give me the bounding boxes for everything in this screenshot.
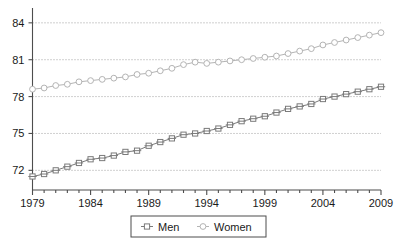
y-axis-label-75: 75 <box>12 127 24 139</box>
x-axis-label-1989: 1989 <box>136 197 160 209</box>
women-marker[interactable] <box>239 57 245 63</box>
series-women[interactable] <box>30 30 384 92</box>
women-marker[interactable] <box>262 54 268 60</box>
women-marker[interactable] <box>76 79 82 85</box>
x-axis-label-1999: 1999 <box>253 197 277 209</box>
women-marker[interactable] <box>157 68 163 74</box>
x-axis-label-2009: 2009 <box>369 197 393 209</box>
chart-legend[interactable]: MenWomen <box>131 216 266 237</box>
women-marker[interactable] <box>320 42 326 48</box>
women-marker[interactable] <box>111 75 117 81</box>
x-tick-labels-group: 1979198419891994199920042009 <box>20 197 393 209</box>
x-tick-marks-group <box>33 190 382 195</box>
women-marker[interactable] <box>30 86 36 92</box>
x-axis-label-1979: 1979 <box>20 197 44 209</box>
x-axis-label-1984: 1984 <box>78 197 102 209</box>
women-marker[interactable] <box>41 85 47 91</box>
women-marker[interactable] <box>64 81 70 87</box>
legend-women-marker-icon <box>200 224 206 230</box>
women-marker[interactable] <box>285 51 291 57</box>
women-marker[interactable] <box>297 48 303 54</box>
x-axis-label-1994: 1994 <box>195 197 219 209</box>
legend-women-label[interactable]: Women <box>214 221 252 233</box>
gridlines-group <box>33 23 382 171</box>
women-marker[interactable] <box>274 53 280 59</box>
women-marker[interactable] <box>204 61 210 67</box>
series-men[interactable] <box>28 84 385 179</box>
women-marker[interactable] <box>355 35 361 41</box>
women-marker[interactable] <box>332 40 338 46</box>
women-marker[interactable] <box>366 32 372 38</box>
women-marker[interactable] <box>88 78 94 84</box>
women-marker[interactable] <box>123 74 129 80</box>
y-axis-label-84: 84 <box>12 17 24 29</box>
women-marker[interactable] <box>134 72 140 78</box>
women-marker[interactable] <box>378 30 384 36</box>
x-axis-label-2004: 2004 <box>311 197 335 209</box>
y-axis-label-81: 81 <box>12 54 24 66</box>
women-marker[interactable] <box>308 46 314 52</box>
women-marker[interactable] <box>343 37 349 43</box>
line-chart: 7275788184 1979198419891994199920042009 … <box>0 0 396 242</box>
women-marker[interactable] <box>181 62 187 68</box>
y-axis-label-72: 72 <box>12 164 24 176</box>
legend-men-label[interactable]: Men <box>158 221 179 233</box>
women-marker[interactable] <box>227 58 233 64</box>
women-marker[interactable] <box>53 83 59 89</box>
women-marker[interactable] <box>250 56 256 62</box>
women-marker[interactable] <box>99 76 105 82</box>
women-marker[interactable] <box>169 65 175 71</box>
chart-canvas: 7275788184 1979198419891994199920042009 … <box>0 0 396 242</box>
legend-men-marker-icon <box>144 224 149 229</box>
y-axis-label-78: 78 <box>12 91 24 103</box>
women-marker[interactable] <box>146 70 152 76</box>
women-marker[interactable] <box>215 59 221 65</box>
women-marker[interactable] <box>192 59 198 65</box>
y-tick-labels-group: 7275788184 <box>12 17 24 177</box>
